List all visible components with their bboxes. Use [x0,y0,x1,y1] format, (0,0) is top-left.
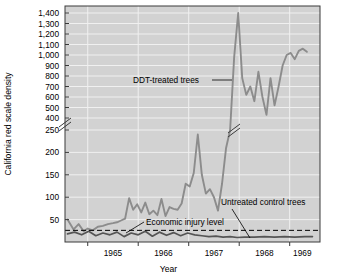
y-axis-tick-label: 500 [45,103,59,113]
y-axis-tick-label: 1,100 [38,40,59,50]
x-axis-tick-label: 1966 [154,248,173,258]
y-axis-tick-label: 250 [45,125,59,135]
y-axis-tick-label: 900 [45,61,59,71]
y-axis-tick-label: 1,200 [38,29,59,39]
y-axis-tick-label: 50 [50,215,60,225]
x-axis-tick-label: 1968 [255,248,274,258]
y-axis-tick-label: 1,000 [38,50,59,60]
x-axis-tick-label: 1969 [293,248,312,258]
x-axis-title: Year [160,264,178,274]
y-axis-tick-label: 200 [45,147,59,157]
y-axis-tick-label: 100 [45,192,59,202]
untreated-control-trees-label: Untreated control trees [221,197,305,207]
y-axis-tick-label: 800 [45,71,59,81]
y-axis-tick-label: 1,400 [38,8,59,18]
economic-injury-level-label: Economic injury level [146,217,224,227]
y-axis-tick-label: 600 [45,92,59,102]
ddt-treated-trees-label: DDT-treated trees [133,75,199,85]
california-red-scale-density-chart: 501001502002504005006007008009001,0001,1… [0,0,337,277]
y-axis-tick-label: 1,300 [38,19,59,29]
chart-container: 501001502002504005006007008009001,0001,1… [0,0,337,277]
y-axis-tick-label: 400 [45,113,59,123]
y-axis-tick-label: 700 [45,82,59,92]
x-axis-tick-label: 1965 [104,248,123,258]
x-axis-tick-label: 1967 [205,248,224,258]
y-axis-title: California red scale density [3,72,13,176]
y-axis-tick-label: 150 [45,170,59,180]
